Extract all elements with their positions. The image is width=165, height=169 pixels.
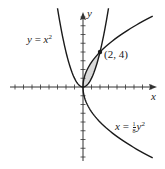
shaded-area bbox=[83, 52, 100, 87]
label-exponent: 2 bbox=[142, 120, 146, 128]
figure: y = x2 (2, 4) x = 18y2 x y bbox=[0, 0, 165, 169]
label-equals: = bbox=[32, 33, 44, 45]
curves bbox=[58, 8, 153, 158]
shaded-region bbox=[83, 52, 100, 87]
plot-area bbox=[0, 0, 165, 169]
y-axis-label: y bbox=[87, 8, 92, 19]
intersection-point-dot bbox=[98, 50, 102, 54]
label-equals: = bbox=[120, 120, 132, 132]
label-exponent: 2 bbox=[49, 33, 53, 41]
y-axis-arrow-icon bbox=[80, 12, 86, 20]
point-label-2-4: (2, 4) bbox=[104, 49, 128, 60]
curve-label-y-equals-x-squared: y = x2 bbox=[27, 34, 52, 45]
points bbox=[98, 50, 102, 54]
fraction-denominator: 8 bbox=[133, 128, 136, 134]
x-axis-label: x bbox=[151, 91, 156, 102]
fraction-numerator: 1 bbox=[133, 121, 136, 128]
curve-label-x-equals-eighth-y-squared: x = 18y2 bbox=[115, 121, 145, 134]
fraction-one-eighth: 18 bbox=[133, 121, 136, 134]
